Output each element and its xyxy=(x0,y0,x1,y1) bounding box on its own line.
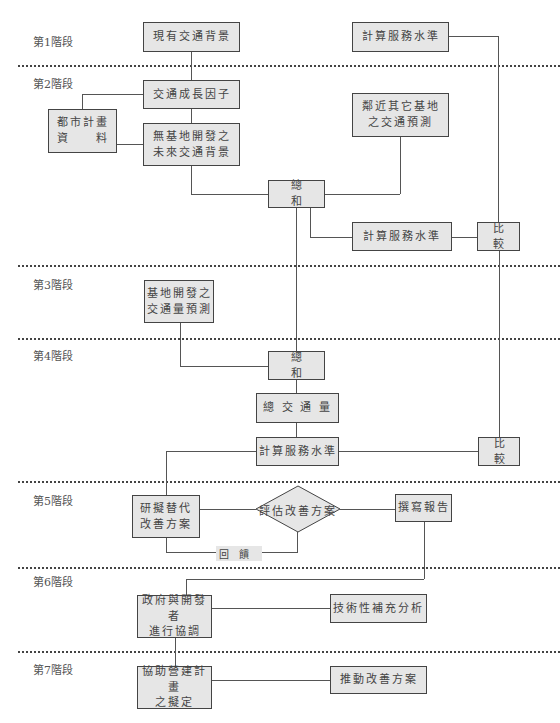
feedback-label: 回饋 xyxy=(216,546,262,561)
node-report: 撰寫報告 xyxy=(395,494,452,522)
connector xyxy=(499,251,500,437)
connector xyxy=(212,608,330,609)
stage-label-2: 第2階段 xyxy=(33,75,73,91)
node-total-volume: 總 交 通 量 xyxy=(256,393,339,423)
connector xyxy=(498,36,499,222)
connector xyxy=(325,194,400,195)
connector xyxy=(191,52,192,80)
connector xyxy=(200,509,256,510)
stage-separator xyxy=(18,338,560,340)
stage-separator xyxy=(18,481,560,483)
stage-separator xyxy=(18,265,560,267)
connector xyxy=(175,638,176,666)
node-urban-plan-data: 都市計畫 資 料 xyxy=(48,109,117,153)
connector xyxy=(180,366,268,367)
connector xyxy=(310,237,352,238)
connector xyxy=(310,208,311,237)
stage-separator xyxy=(18,651,560,653)
connector xyxy=(400,137,401,194)
stage-label-6: 第6階段 xyxy=(33,573,73,589)
connector xyxy=(340,509,395,510)
node-construction-plan: 協助營建計畫 之擬定 xyxy=(137,666,212,709)
node-existing-traffic: 現有交通背景 xyxy=(143,22,240,52)
connector xyxy=(82,94,83,109)
node-calc-service-2: 計算服務水準 xyxy=(352,222,452,251)
connector xyxy=(296,380,297,393)
connector xyxy=(424,522,425,579)
stage-label-7: 第7階段 xyxy=(33,661,73,677)
node-alt-plans: 研擬替代 改善方案 xyxy=(132,495,200,538)
connector xyxy=(191,166,192,194)
connector xyxy=(166,538,167,552)
node-nearby-sites-forecast: 鄰近其它基地 之交通預測 xyxy=(352,93,449,137)
node-calc-service-3: 計算服務水準 xyxy=(256,437,339,466)
connector xyxy=(212,680,330,681)
connector xyxy=(180,323,181,366)
node-calc-service-top: 計算服務水準 xyxy=(352,22,449,52)
stage-label-1: 第1階段 xyxy=(33,33,73,49)
connector xyxy=(297,532,298,552)
stage-label-5: 第5階段 xyxy=(33,492,73,508)
node-growth-factor: 交通成長因子 xyxy=(143,80,240,109)
node-sum-2: 總和 xyxy=(268,351,325,380)
node-compare-1: 比較 xyxy=(477,222,520,251)
node-compare-2: 比較 xyxy=(478,437,520,466)
stage-separator xyxy=(18,65,560,67)
connector xyxy=(82,94,143,95)
connector xyxy=(166,451,167,495)
connector xyxy=(117,144,143,145)
node-site-forecast: 基地開發之 交通量預測 xyxy=(144,280,214,323)
connector xyxy=(296,208,297,351)
node-future-without-site: 無基地開發之 未來交通背景 xyxy=(143,123,240,166)
connector xyxy=(452,237,477,238)
node-coordination: 政府與開發者 進行協調 xyxy=(137,595,212,638)
node-evaluate: 評估改善方案 xyxy=(256,502,340,518)
connector xyxy=(186,579,424,580)
stage-separator xyxy=(18,567,560,569)
stage-label-4: 第4階段 xyxy=(33,347,73,363)
connector xyxy=(296,423,297,437)
stage-label-3: 第3階段 xyxy=(33,276,73,292)
connector xyxy=(191,194,268,195)
connector xyxy=(166,451,256,452)
connector xyxy=(191,109,192,123)
node-implement: 推動改善方案 xyxy=(330,666,427,694)
node-tech-analysis: 技術性補充分析 xyxy=(330,594,427,623)
connector xyxy=(449,36,498,37)
node-sum-1: 總和 xyxy=(268,180,325,208)
connector xyxy=(339,451,478,452)
